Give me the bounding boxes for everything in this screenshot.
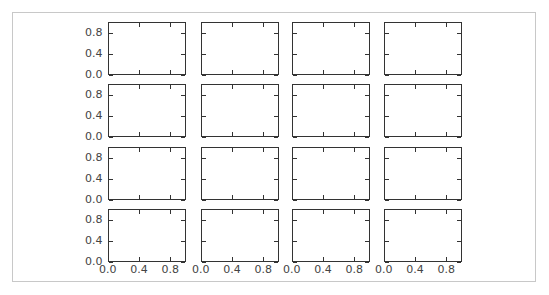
x-tick <box>201 195 202 199</box>
x-tick-label: 0.0 <box>375 264 393 275</box>
x-tick <box>263 195 264 199</box>
x-tick <box>232 132 233 136</box>
x-tick <box>292 195 293 199</box>
x-tick <box>170 210 171 214</box>
x-tick <box>263 210 264 214</box>
y-tick <box>457 158 461 159</box>
y-tick-label: 0.8 <box>85 152 103 163</box>
subplot-axes <box>384 209 462 262</box>
y-tick <box>109 33 113 34</box>
x-tick-label: 0.8 <box>345 264 363 275</box>
x-tick <box>232 195 233 199</box>
y-tick <box>365 220 369 221</box>
x-tick <box>323 148 324 152</box>
y-tick <box>274 95 278 96</box>
x-tick <box>201 257 202 261</box>
y-tick-label: 0.8 <box>85 214 103 225</box>
x-tick <box>384 85 385 89</box>
x-tick <box>354 85 355 89</box>
y-tick-label: 0.8 <box>85 89 103 100</box>
x-tick <box>139 148 140 152</box>
x-tick <box>354 195 355 199</box>
y-tick <box>293 179 297 180</box>
y-tick <box>181 137 185 138</box>
x-tick <box>263 85 264 89</box>
subplot-axes <box>292 209 370 262</box>
y-tick <box>293 54 297 55</box>
x-tick <box>354 23 355 27</box>
y-tick <box>385 241 389 242</box>
x-tick <box>170 148 171 152</box>
y-tick <box>385 262 389 263</box>
x-tick <box>232 148 233 152</box>
y-tick <box>365 200 369 201</box>
y-tick <box>109 241 113 242</box>
y-tick <box>202 220 206 221</box>
x-tick-label: 0.4 <box>314 264 332 275</box>
y-tick <box>385 116 389 117</box>
y-tick <box>457 116 461 117</box>
x-tick <box>384 195 385 199</box>
x-tick <box>354 70 355 74</box>
y-tick <box>457 200 461 201</box>
x-tick <box>354 210 355 214</box>
y-tick <box>385 220 389 221</box>
y-tick <box>274 262 278 263</box>
x-tick <box>108 70 109 74</box>
x-tick <box>354 132 355 136</box>
y-tick <box>109 200 113 201</box>
y-tick <box>385 179 389 180</box>
y-tick <box>181 75 185 76</box>
x-tick <box>108 23 109 27</box>
y-tick <box>274 137 278 138</box>
x-tick <box>415 23 416 27</box>
subplot-axes <box>292 22 370 75</box>
x-tick <box>446 210 447 214</box>
y-tick <box>385 200 389 201</box>
x-tick <box>201 148 202 152</box>
subplot-axes <box>108 209 186 262</box>
y-tick <box>181 241 185 242</box>
x-tick <box>415 257 416 261</box>
x-tick <box>323 23 324 27</box>
y-tick <box>181 33 185 34</box>
subplot-axes <box>108 22 186 75</box>
y-tick-label: 0.4 <box>85 48 103 59</box>
y-tick <box>365 158 369 159</box>
subplot-axes <box>201 209 279 262</box>
subplot-axes <box>201 84 279 137</box>
y-tick <box>293 241 297 242</box>
x-tick <box>446 257 447 261</box>
x-tick <box>354 148 355 152</box>
y-tick <box>202 179 206 180</box>
y-tick <box>109 95 113 96</box>
x-tick <box>446 70 447 74</box>
x-tick <box>415 132 416 136</box>
y-tick <box>274 75 278 76</box>
x-tick <box>323 70 324 74</box>
x-tick <box>446 132 447 136</box>
subplot-axes <box>292 84 370 137</box>
subplot-axes <box>201 147 279 200</box>
y-tick-label: 0.4 <box>85 173 103 184</box>
x-tick <box>139 210 140 214</box>
y-tick <box>385 158 389 159</box>
x-tick <box>201 23 202 27</box>
x-tick <box>415 210 416 214</box>
x-tick <box>139 195 140 199</box>
y-tick <box>457 179 461 180</box>
y-tick <box>202 95 206 96</box>
x-tick <box>292 85 293 89</box>
x-tick <box>292 23 293 27</box>
x-tick <box>446 195 447 199</box>
x-tick <box>384 210 385 214</box>
y-tick <box>365 116 369 117</box>
y-tick-label: 0.0 <box>85 194 103 205</box>
y-tick <box>181 179 185 180</box>
y-tick <box>293 116 297 117</box>
x-tick <box>232 23 233 27</box>
y-tick <box>293 75 297 76</box>
y-tick <box>109 179 113 180</box>
x-tick <box>170 23 171 27</box>
x-tick <box>108 148 109 152</box>
